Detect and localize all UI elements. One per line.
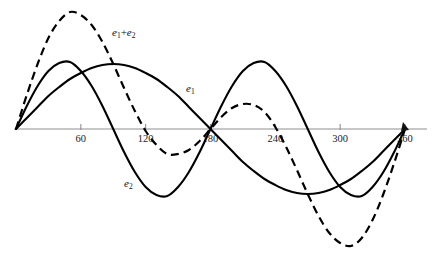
curve-label-e1: e1 [186,82,195,96]
waveform-plot-canvas: 60120180240300360 e1+e2 e1 e2 [0,0,437,253]
x-tick-label-120: 120 [138,133,154,144]
x-tick-label-60: 60 [76,133,87,144]
x-tick-label-300: 300 [332,133,348,144]
axis-end-arrow-icon [401,122,409,131]
curve-label-e2: e2 [124,177,133,191]
curve-label-e1-plus-e2: e1+e2 [112,26,136,40]
waveform-figure: 60120180240300360 e1+e2 e1 e2 [0,0,437,253]
x-axis-tick-labels: 60120180240300360 [76,133,413,144]
